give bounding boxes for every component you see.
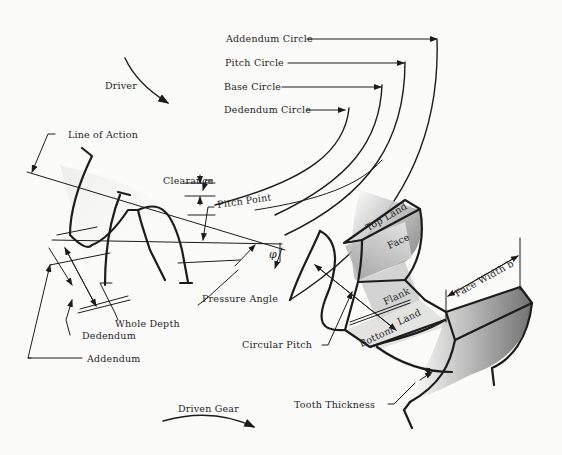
label-whole-depth: Whole Depth <box>115 318 180 329</box>
line-of-action-leader <box>32 134 55 172</box>
label-circular-pitch: Circular Pitch <box>242 339 312 350</box>
label-dedendum: Dedendum <box>82 330 136 341</box>
label-driver: Driver <box>105 80 137 91</box>
driven-rotation-arrow <box>163 415 254 427</box>
label-line-of-action: Line of Action <box>68 129 138 140</box>
rack-tooth-3d <box>290 190 450 350</box>
label-phi: φ <box>269 249 277 260</box>
circle-leaders <box>282 39 437 110</box>
gear-nomenclature-diagram: Addendum Circle Pitch Circle Base Circle… <box>0 0 562 455</box>
label-pressure-angle: Pressure Angle <box>202 293 278 304</box>
label-base-circle: Base Circle <box>224 81 281 92</box>
label-addendum-circle: Addendum Circle <box>226 33 313 44</box>
label-dedendum-circle: Dedendum Circle <box>224 104 311 115</box>
label-tooth-thickness: Tooth Thickness <box>294 399 375 410</box>
diagram-linework <box>0 0 562 455</box>
label-pitch-circle: Pitch Circle <box>225 57 284 68</box>
driver-gear-profile <box>60 148 192 285</box>
label-clearance: Clearance <box>163 175 214 186</box>
label-driven-gear: Driven Gear <box>178 403 239 414</box>
label-addendum: Addendum <box>87 353 141 364</box>
